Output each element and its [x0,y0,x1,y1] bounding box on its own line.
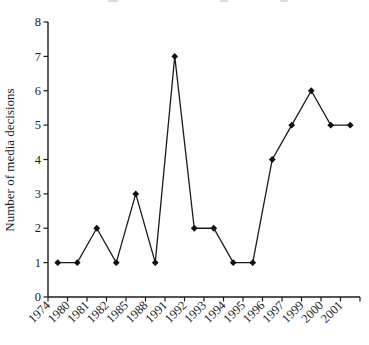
data-point-marker [93,225,100,232]
data-point-marker [269,156,276,163]
data-point-marker [347,122,354,129]
y-tick-label: 7 [35,50,41,64]
y-tick-label: 4 [35,153,42,167]
data-point-marker [308,87,315,94]
plot-area: 0123456781974198019811982198519881991199… [26,15,360,326]
cropped-text-mark [220,0,228,2]
chart: Number of media decisions 01234567819741… [0,0,369,345]
cropped-text-mark [108,0,118,2]
data-point-marker [113,259,120,266]
data-point-marker [152,259,159,266]
cropped-title-fragments [108,0,288,2]
y-tick-label: 8 [35,15,41,29]
line-chart-svg: Number of media decisions 01234567819741… [0,0,369,345]
cropped-text-mark [280,0,288,2]
data-line [58,56,351,262]
y-tick-label: 5 [35,118,41,132]
data-point-marker [288,122,295,129]
data-point-marker [54,259,61,266]
data-point-marker [74,259,81,266]
y-axis-title: Number of media decisions [2,88,17,231]
data-point-marker [132,190,139,197]
data-point-marker [171,53,178,60]
data-point-marker [249,259,256,266]
y-tick-label: 2 [35,221,41,235]
x-tick-label: 2001 [318,298,346,326]
data-point-marker [210,225,217,232]
y-tick-label: 6 [35,84,41,98]
y-tick-label: 1 [35,256,41,270]
y-tick-label: 3 [35,187,41,201]
data-point-marker [230,259,237,266]
data-point-marker [327,122,334,129]
data-point-marker [191,225,198,232]
